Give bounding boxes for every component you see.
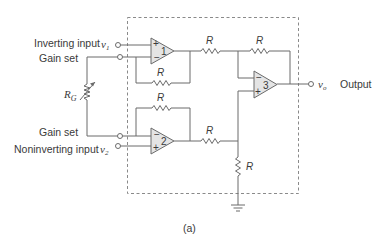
opamp3-id: 3 [263, 80, 269, 91]
v1-symbol: v1 [101, 38, 109, 52]
rg-variable-arrow-head [90, 82, 95, 87]
figure-caption: (a) [183, 222, 196, 234]
gain-set-bottom-label: Gain set [39, 126, 78, 138]
instrumentation-amplifier-diagram: Inverting input v1 Gain set Gain set Non… [0, 0, 379, 250]
opamp3-minus: − [256, 72, 262, 83]
wire-fb1-left [136, 57, 152, 83]
v2-symbol: v2 [100, 143, 109, 157]
output-label: Output [340, 78, 372, 90]
r-feedback-3-label: R [256, 35, 263, 46]
gain-set-top-label: Gain set [39, 52, 78, 64]
opamp2-id: 2 [161, 136, 167, 147]
r-feedback-1-label: R [157, 67, 164, 78]
wire-gain-set-top [87, 57, 118, 84]
r-in-3-top [201, 49, 220, 54]
rg-label: RG [63, 88, 77, 103]
wire-fb2-right [171, 108, 190, 141]
opamp2-minus: − [154, 129, 160, 140]
r-in-3-bottom-label: R [206, 125, 213, 136]
wire-fb1-right [171, 51, 190, 83]
wire-node-b-to-opamp3-plus [238, 91, 254, 141]
r-feedback-1 [152, 81, 171, 86]
wire-gain-set-bottom [87, 100, 118, 136]
r-feedback-2-label: R [157, 92, 164, 103]
r-feedback-3 [250, 49, 269, 54]
r-in-3-bottom [201, 139, 220, 144]
opamp3-plus: + [255, 86, 261, 97]
opamp1-plus: + [153, 38, 159, 49]
ground-icon [231, 205, 245, 211]
noninverting-input-label: Noninverting input [14, 143, 99, 155]
vo-symbol: vo [318, 78, 327, 92]
wire-node-a-to-opamp3-minus [238, 51, 254, 78]
r-feedback-2 [152, 106, 171, 111]
inverting-input-terminal[interactable] [116, 43, 121, 48]
r-ground-label: R [246, 161, 253, 172]
inverting-input-label: Inverting input [34, 37, 100, 49]
gain-set-top-terminal[interactable] [118, 55, 123, 60]
opamp1-minus: − [154, 52, 160, 63]
opamp2-plus: + [153, 142, 159, 153]
gain-set-bottom-terminal[interactable] [118, 134, 123, 139]
wire-fb2-left [136, 108, 152, 136]
wire-rf3-to-output [269, 51, 290, 84]
opamp1-id: 1 [161, 46, 167, 57]
r-in-3-top-label: R [206, 35, 213, 46]
output-terminal[interactable] [309, 82, 314, 87]
r-ground [236, 157, 241, 176]
noninverting-input-terminal[interactable] [116, 144, 121, 149]
